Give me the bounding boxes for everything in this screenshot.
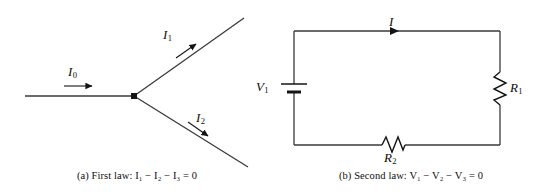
junction-node-dot [131,93,137,99]
label-current-i: I [389,14,393,30]
wire-branch-i1 [134,18,244,96]
label-voltage-v1: V1 [256,79,269,95]
figure-page: I0 I1 I2 I V1 R1 R2 (a) First law: I₁ − … [0,0,548,195]
physics-figure-canvas [0,0,548,195]
panel-second-law [281,27,506,152]
label-resistor-r1: R1 [510,80,523,96]
label-resistor-r2: R2 [384,150,397,166]
panel-first-law [25,18,248,167]
label-current-i0: I0 [68,64,77,80]
battery-symbol-icon [281,84,307,92]
current-arrow-i1-icon [176,44,196,58]
caption-second-law: (b) Second law: V₁ − V₂ − V₃ = 0 [274,170,548,181]
label-current-i2: I2 [196,110,205,126]
label-current-i1: I1 [163,27,172,43]
caption-first-law: (a) First law: I₁ − I₂ − I₃ = 0 [0,170,274,181]
wire-branch-i2 [134,96,248,167]
resistor-r1-zigzag-icon [494,72,506,105]
